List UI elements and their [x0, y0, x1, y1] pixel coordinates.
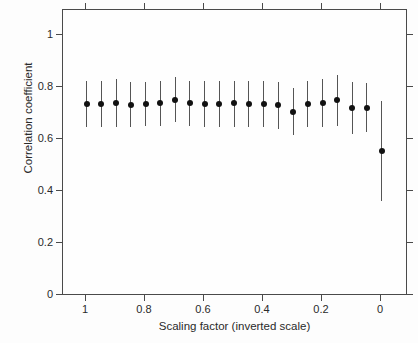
y-axis-tick-label: 1	[47, 28, 53, 40]
y-axis-tick	[56, 34, 62, 35]
y-axis-tick-label: 0.8	[38, 80, 53, 92]
x-axis-tick-top	[203, 3, 204, 9]
data-point-marker	[128, 102, 134, 108]
data-point-marker	[349, 105, 355, 111]
data-point-marker	[98, 101, 104, 107]
x-axis-tick	[85, 295, 86, 301]
x-axis-title: Scaling factor (inverted scale)	[62, 320, 407, 332]
y-axis-tick-label: 0.4	[38, 184, 53, 196]
x-axis-tick-label: 1	[82, 303, 88, 315]
x-axis-tick	[203, 295, 204, 301]
x-axis-tick-top	[144, 3, 145, 9]
data-point-marker	[261, 101, 267, 107]
y-axis-tick	[56, 138, 62, 139]
data-point-marker	[157, 100, 163, 106]
y-axis-tick-right	[407, 294, 413, 295]
x-axis-tick-top	[380, 3, 381, 9]
x-axis-tick-label: 0.2	[313, 303, 328, 315]
y-axis-tick	[56, 86, 62, 87]
x-axis-tick-top	[85, 3, 86, 9]
y-axis-tick-right	[407, 86, 413, 87]
y-axis-tick	[56, 294, 62, 295]
data-point-marker	[216, 101, 222, 107]
x-axis-tick	[262, 295, 263, 301]
x-axis-tick-top	[321, 3, 322, 9]
data-point-marker	[113, 100, 119, 106]
x-axis-tick-label: 0	[377, 303, 383, 315]
data-point-marker	[364, 105, 370, 111]
y-axis-tick-label: 0.2	[38, 236, 53, 248]
chart-figure: 00.20.40.60.8110.80.60.40.20 Correlation…	[0, 0, 418, 343]
data-point-marker	[334, 97, 340, 103]
y-axis-tick-label: 0	[47, 288, 53, 300]
x-axis-tick-label: 0.4	[254, 303, 269, 315]
y-axis-tick-right	[407, 190, 413, 191]
x-axis-tick	[380, 295, 381, 301]
y-axis-tick	[56, 190, 62, 191]
y-axis-tick-right	[407, 138, 413, 139]
x-axis-tick-top	[262, 3, 263, 9]
data-point-marker	[246, 101, 252, 107]
x-axis-tick	[321, 295, 322, 301]
data-point-marker	[172, 97, 178, 103]
y-axis-tick-right	[407, 34, 413, 35]
x-axis-tick	[144, 295, 145, 301]
data-point-marker	[84, 101, 90, 107]
data-point-marker	[202, 101, 208, 107]
data-point-marker	[187, 100, 193, 106]
data-point-marker	[231, 100, 237, 106]
y-axis-tick	[56, 242, 62, 243]
data-point-marker	[275, 102, 281, 108]
y-axis-tick-label: 0.6	[38, 132, 53, 144]
data-point-marker	[143, 101, 149, 107]
x-axis-tick-label: 0.6	[195, 303, 210, 315]
y-axis-title: Correlation coefficient	[22, 28, 34, 208]
data-point-marker	[305, 101, 311, 107]
plot-area-frame	[62, 9, 407, 295]
y-axis-tick-right	[407, 242, 413, 243]
data-point-marker	[379, 148, 385, 154]
data-layer	[63, 10, 406, 294]
x-axis-tick-label: 0.8	[136, 303, 151, 315]
data-point-marker	[320, 100, 326, 106]
data-point-marker	[290, 109, 296, 115]
